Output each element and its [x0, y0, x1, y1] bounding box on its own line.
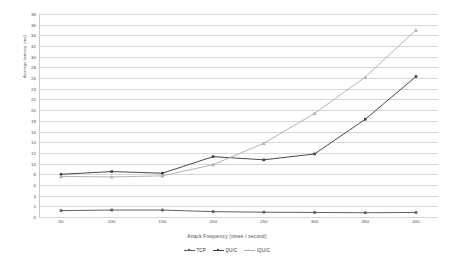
- legend-label: QUIC: [225, 248, 237, 253]
- data-point-marker: [110, 170, 113, 173]
- y-tick-label: 16: [22, 129, 36, 134]
- legend-entry-quic[interactable]: QUIC: [213, 248, 237, 253]
- x-tick-label: 300: [300, 219, 330, 224]
- y-axis-tick-labels: 02468101214161820222426283032343638: [22, 14, 36, 217]
- y-tick-label: 10: [22, 161, 36, 166]
- y-tick-label: 28: [22, 65, 36, 70]
- y-tick-label: 34: [22, 33, 36, 38]
- y-tick-label: 4: [22, 193, 36, 198]
- x-axis-title: Attack Frequency (times / second): [0, 234, 454, 239]
- data-point-marker: [364, 118, 367, 121]
- x-axis-tick-labels: 50100150200250300350400: [39, 219, 438, 229]
- y-tick-label: 12: [22, 150, 36, 155]
- data-point-marker: [110, 209, 113, 212]
- y-tick-label: 6: [22, 182, 36, 187]
- y-tick-label: 38: [22, 12, 36, 17]
- y-tick-label: 0: [22, 215, 36, 220]
- x-tick-label: 250: [249, 219, 279, 224]
- legend-swatch-icon: [184, 248, 195, 253]
- series-layer: [39, 14, 438, 217]
- data-point-marker: [263, 211, 266, 214]
- x-tick-label: 200: [198, 219, 228, 224]
- gridline: [39, 217, 438, 218]
- latency-line-chart: Average latency (ms) 0246810121416182022…: [0, 0, 454, 268]
- series-line: [61, 210, 416, 213]
- y-tick-label: 8: [22, 172, 36, 177]
- legend-entry-tcp[interactable]: TCP: [184, 248, 206, 253]
- x-tick-label: 350: [350, 219, 380, 224]
- y-tick-label: 14: [22, 140, 36, 145]
- data-point-marker: [263, 159, 266, 162]
- data-point-marker: [364, 211, 367, 214]
- y-tick-label: 36: [22, 22, 36, 27]
- legend-entry-iquic[interactable]: IQUIC: [244, 248, 270, 253]
- legend-label: TCP: [196, 248, 205, 253]
- legend-label: IQUIC: [257, 248, 270, 253]
- data-point-marker: [161, 209, 164, 212]
- data-point-marker: [414, 28, 418, 32]
- y-tick-label: 24: [22, 86, 36, 91]
- y-tick-label: 2: [22, 204, 36, 209]
- y-tick-label: 32: [22, 44, 36, 49]
- y-tick-label: 22: [22, 97, 36, 102]
- y-tick-label: 18: [22, 118, 36, 123]
- x-tick-label: 50: [46, 219, 76, 224]
- x-tick-label: 150: [147, 219, 177, 224]
- chart-legend: TCPQUICIQUIC: [0, 248, 454, 253]
- data-point-marker: [313, 211, 316, 214]
- y-tick-label: 26: [22, 76, 36, 81]
- series-line: [61, 30, 416, 177]
- x-tick-label: 400: [401, 219, 431, 224]
- legend-swatch-icon: [244, 248, 255, 253]
- series-line: [61, 77, 416, 175]
- plot-area: [39, 14, 438, 217]
- data-point-marker: [212, 210, 215, 213]
- legend-swatch-icon: [213, 248, 224, 253]
- y-tick-label: 20: [22, 108, 36, 113]
- data-point-marker: [415, 211, 418, 214]
- x-tick-label: 100: [97, 219, 127, 224]
- series-tcp: [60, 209, 418, 214]
- y-tick-label: 30: [22, 54, 36, 59]
- series-quic: [60, 75, 418, 175]
- data-point-marker: [415, 75, 418, 78]
- data-point-marker: [313, 153, 316, 156]
- data-point-marker: [262, 141, 266, 145]
- series-iquic: [59, 28, 418, 178]
- data-point-marker: [212, 155, 215, 158]
- data-point-marker: [60, 209, 63, 212]
